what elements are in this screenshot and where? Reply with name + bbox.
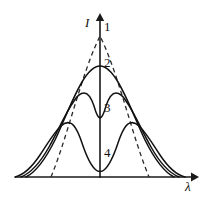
x-axis-group: [15, 173, 199, 182]
y-axis-group: [96, 13, 104, 178]
curve-4-label: 4: [104, 146, 111, 159]
spectral-intensity-figure: I λ 1 2 3 4: [0, 0, 208, 199]
curve-2-label: 2: [104, 56, 111, 69]
x-axis-label: λ: [185, 180, 191, 193]
curve-1-label: 1: [104, 20, 111, 33]
curve-3-label: 3: [104, 101, 111, 114]
y-axis-label: I: [85, 16, 89, 29]
x-axis-arrowhead: [191, 173, 199, 182]
y-axis-arrowhead: [96, 13, 104, 21]
